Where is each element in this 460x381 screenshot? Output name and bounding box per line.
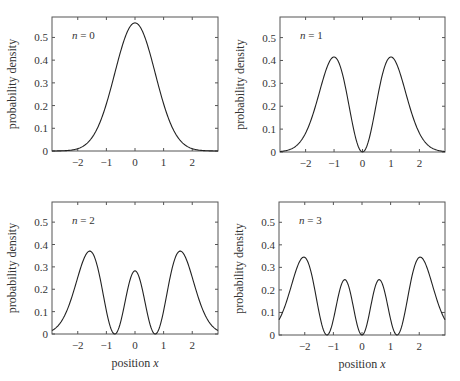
x-tick-label: 0 bbox=[132, 339, 138, 351]
y-axis-label: probability density bbox=[5, 39, 19, 129]
x-tick-label: 1 bbox=[388, 340, 394, 352]
x-tick-label: −2 bbox=[72, 339, 84, 351]
y-axis-label: probability density bbox=[233, 39, 247, 129]
density-curve bbox=[279, 257, 445, 335]
y-tick-label: 0.2 bbox=[261, 284, 275, 296]
y-tick-label: 0.4 bbox=[34, 54, 48, 66]
plot-panel-n3: 00.10.20.30.40.5−2−1012probability densi… bbox=[232, 202, 445, 371]
y-axis-label: probability density bbox=[232, 223, 246, 313]
y-tick-label: 0.3 bbox=[34, 77, 48, 89]
density-curve bbox=[280, 57, 445, 152]
x-axis-label: position x bbox=[112, 356, 160, 370]
x-tick-label: 1 bbox=[161, 156, 167, 168]
plot-panel-n0: 00.10.20.30.40.5−2−1012probability densi… bbox=[5, 17, 218, 168]
x-tick-label: 2 bbox=[189, 156, 195, 168]
y-tick-label: 0.2 bbox=[34, 100, 48, 112]
y-tick-label: 0 bbox=[271, 146, 277, 158]
plot-panel-n1: 00.10.20.30.40.5−2−1012probability densi… bbox=[233, 17, 445, 169]
x-tick-label: 2 bbox=[189, 339, 195, 351]
x-tick-label: 0 bbox=[360, 157, 366, 169]
x-tick-label: −1 bbox=[328, 340, 340, 352]
y-tick-label: 0.3 bbox=[262, 77, 276, 89]
y-tick-label: 0.4 bbox=[261, 239, 275, 251]
state-annotation: n = 2 bbox=[72, 214, 95, 226]
x-tick-label: 1 bbox=[161, 339, 167, 351]
plot-panel-n2: 00.10.20.30.40.5−2−1012probability densi… bbox=[5, 202, 218, 370]
x-tick-label: 2 bbox=[416, 340, 422, 352]
y-tick-label: 0.2 bbox=[34, 283, 48, 295]
y-tick-label: 0.3 bbox=[34, 261, 48, 273]
figure-canvas: 00.10.20.30.40.5−2−1012probability densi… bbox=[0, 0, 460, 381]
x-axis-label: position x bbox=[339, 357, 387, 371]
x-tick-label: −1 bbox=[328, 157, 340, 169]
y-tick-label: 0.5 bbox=[261, 216, 275, 228]
x-tick-label: 0 bbox=[132, 156, 138, 168]
y-tick-label: 0.4 bbox=[262, 54, 276, 66]
state-annotation: n = 0 bbox=[72, 29, 95, 41]
state-annotation: n = 1 bbox=[300, 29, 323, 41]
density-curve bbox=[52, 251, 218, 334]
y-tick-label: 0 bbox=[43, 328, 49, 340]
y-tick-label: 0.5 bbox=[34, 216, 48, 228]
x-tick-label: 1 bbox=[388, 157, 394, 169]
x-tick-label: 0 bbox=[359, 340, 365, 352]
x-tick-label: −2 bbox=[299, 340, 311, 352]
x-tick-label: −2 bbox=[72, 156, 84, 168]
x-tick-label: −2 bbox=[300, 157, 312, 169]
x-tick-label: 2 bbox=[417, 157, 423, 169]
y-tick-label: 0.2 bbox=[262, 100, 276, 112]
figure: 00.10.20.30.40.5−2−1012probability densi… bbox=[0, 0, 460, 381]
y-axis-label: probability density bbox=[5, 223, 19, 313]
x-tick-label: −1 bbox=[101, 156, 113, 168]
state-annotation: n = 3 bbox=[299, 214, 322, 226]
y-tick-label: 0.5 bbox=[34, 31, 48, 43]
y-tick-label: 0 bbox=[43, 145, 49, 157]
y-tick-label: 0.1 bbox=[34, 122, 48, 134]
y-tick-label: 0 bbox=[270, 329, 276, 341]
y-tick-label: 0.5 bbox=[262, 32, 276, 44]
x-tick-label: −1 bbox=[101, 339, 113, 351]
y-tick-label: 0.1 bbox=[34, 306, 48, 318]
density-curve bbox=[52, 23, 218, 151]
y-tick-label: 0.3 bbox=[261, 261, 275, 273]
y-tick-label: 0.1 bbox=[262, 123, 276, 135]
y-tick-label: 0.4 bbox=[34, 239, 48, 251]
y-tick-label: 0.1 bbox=[261, 306, 275, 318]
